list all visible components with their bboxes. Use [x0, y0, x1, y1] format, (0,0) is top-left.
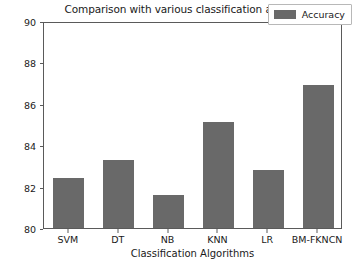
- x-tick-label: BM-FKNCN: [292, 234, 343, 245]
- x-tick-mark: [217, 229, 218, 233]
- y-tick-label: 80: [24, 224, 36, 235]
- legend-label-accuracy: Accuracy: [302, 9, 345, 20]
- x-tick-label: DT: [111, 234, 124, 245]
- bar-nb: [153, 195, 184, 228]
- y-tick-label: 82: [24, 182, 36, 193]
- plot-area: [43, 22, 342, 229]
- x-tick-label: LR: [261, 234, 273, 245]
- bar-bm-fkncn: [303, 85, 334, 228]
- bar-knn: [203, 122, 234, 228]
- y-tick-label: 86: [24, 99, 36, 110]
- x-tick-mark: [67, 229, 68, 233]
- x-tick-mark: [117, 229, 118, 233]
- x-tick-mark: [167, 229, 168, 233]
- x-tick-label: KNN: [207, 234, 227, 245]
- x-tick-mark: [267, 229, 268, 233]
- y-tick-label: 84: [24, 141, 36, 152]
- bar-svm: [53, 178, 84, 228]
- bars-layer: [44, 23, 341, 228]
- bar-lr: [253, 170, 284, 228]
- legend-swatch-accuracy: [274, 10, 296, 19]
- bar-dt: [103, 160, 134, 228]
- x-tick-label: SVM: [58, 234, 79, 245]
- x-tick-mark: [317, 229, 318, 233]
- legend: Accuracy: [268, 4, 352, 25]
- x-tick-label: NB: [161, 234, 175, 245]
- y-tick-label: 90: [24, 17, 36, 28]
- y-tick-mark: [40, 229, 44, 230]
- x-axis-label: Classification Algorithms: [43, 248, 342, 259]
- bar-chart-figure: Comparison with various classification a…: [0, 0, 356, 274]
- y-tick-label: 88: [24, 58, 36, 69]
